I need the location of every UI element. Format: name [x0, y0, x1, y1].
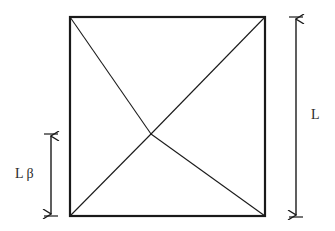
diagonal-intersection-to-bottom-right — [151, 134, 265, 216]
dimension-label-l: L — [311, 107, 320, 122]
dimension-arrow-l — [289, 17, 303, 217]
diagonal-top-left-to-intersection — [70, 17, 151, 134]
dimension-arrow-l-beta — [44, 134, 58, 216]
diagonal-top-right-to-intersection — [151, 17, 265, 134]
dimension-label-l-beta: L β — [15, 166, 34, 181]
square-diagonals-diagram: L L β — [0, 0, 335, 231]
diagonal-intersection-to-bottom-left — [70, 134, 151, 216]
